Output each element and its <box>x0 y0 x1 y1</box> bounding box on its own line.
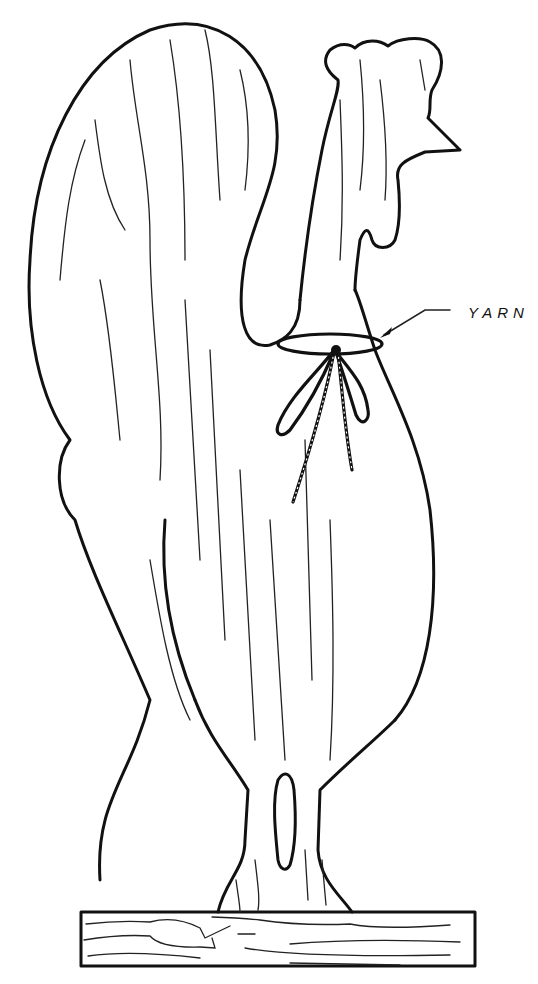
base-board <box>81 912 475 966</box>
yarn-callout <box>380 310 450 338</box>
rooster-drawing: YARN <box>0 0 538 984</box>
yarn-label: YARN <box>468 304 529 321</box>
yarn-bow <box>277 334 382 502</box>
rooster-body <box>29 24 460 912</box>
